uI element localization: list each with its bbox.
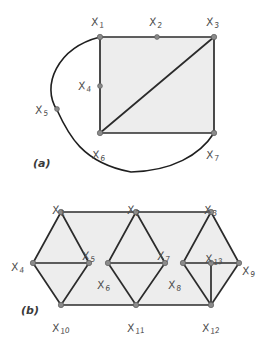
node-x7[interactable] [211,130,216,135]
node-x12[interactable] [208,302,213,307]
panel-a-label-x2: X2 [149,15,162,27]
panel-b-label-x8: X8 [168,278,181,290]
panel-b-label-x1: X1 [52,203,65,215]
node-x4[interactable] [30,260,35,265]
panel-b-label-x12: X12 [202,321,220,334]
panel-b-label-x5: X5 [82,249,95,261]
panel-a-label-x6: X6 [92,148,105,160]
node-x6[interactable] [97,130,102,135]
panel-b-label-x9: X9 [242,264,255,276]
panel-a-label-x7: X7 [206,148,219,160]
graph-figure-svg [0,0,267,352]
panel-a-label-x4: X4 [78,79,91,91]
panel-a-label-x5: X5 [35,103,48,115]
node-x1[interactable] [97,34,102,39]
figure-root: X1X2X3X4X5X6X7(a)X1X2X3X4X5X6X7X8X9X10X1… [0,0,267,352]
panel-a-graph [51,34,217,172]
node-x10[interactable] [58,302,63,307]
node-x8[interactable] [180,260,185,265]
panel-b-label-x10: X10 [52,321,70,334]
panel-b-label-x4: X4 [11,260,24,272]
panel-b-label-x7: X7 [157,249,170,261]
panel-b-label-x6: X6 [97,278,110,290]
panel-b-label-x11: X11 [127,321,145,334]
panel-a-label-x3: X3 [206,15,219,27]
node-x4[interactable] [98,84,103,89]
panel-a-caption: (a) [33,157,50,170]
panel-b-label-x2: X2 [127,203,140,215]
node-x3[interactable] [211,34,216,39]
node-x2[interactable] [155,35,160,40]
node-x11[interactable] [133,302,138,307]
panel-b-caption: (b) [21,304,39,317]
node-x5[interactable] [55,107,60,112]
panel-b-label-x3: X3 [204,203,217,215]
panel-b-label-x13: X13 [205,252,223,265]
node-x6[interactable] [105,260,110,265]
panel-a-label-x1: X1 [91,15,104,27]
